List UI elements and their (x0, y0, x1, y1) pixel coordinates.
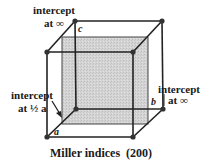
label-a-intercept-line1: intercept (11, 89, 53, 101)
label-a-intercept-line2: at ½ a (18, 102, 47, 114)
label-c-intercept-line2: at ∞ (44, 17, 64, 29)
unit-cell-diagram: c b a intercept at ∞ intercept at ∞ inte… (0, 0, 214, 162)
caption: Miller indices (200) (50, 146, 152, 160)
label-b-intercept-line2: at ∞ (168, 94, 188, 106)
label-a-pointer-arrow (52, 101, 62, 118)
axis-label-a: a (54, 126, 59, 137)
label-c-intercept-line1: intercept (33, 4, 75, 16)
axis-label-c: c (78, 23, 83, 34)
axis-label-b: b (151, 96, 156, 107)
